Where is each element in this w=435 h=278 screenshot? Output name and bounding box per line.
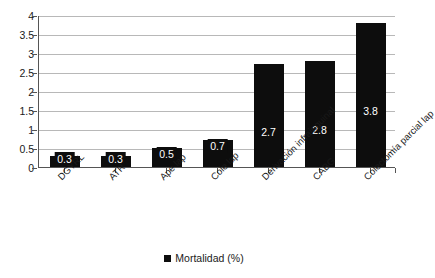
bar-slot: 0.3: [90, 16, 141, 167]
bar[interactable]: [356, 23, 386, 167]
y-tick-label: 3.5: [4, 30, 34, 41]
y-tick-label: 2: [4, 87, 34, 98]
bar-value-label: 2.7: [261, 127, 276, 138]
y-tick-label: 4: [4, 11, 34, 22]
y-tick-label: 0: [4, 163, 34, 174]
y-tick-label: 3: [4, 49, 34, 60]
chart-legend: Mortalidad (%): [0, 253, 408, 264]
y-tick-mark: [32, 92, 37, 93]
legend-label: Mortalidad (%): [175, 253, 243, 264]
bar-slot: 3.8: [345, 16, 396, 167]
y-tick-mark: [32, 35, 37, 36]
bar-slot: 2.7: [243, 16, 294, 167]
y-tick-label: 1: [4, 125, 34, 136]
y-tick-mark: [32, 111, 37, 112]
bar[interactable]: [254, 64, 284, 167]
y-tick-mark: [32, 54, 37, 55]
y-axis: 00.511.522.533.54: [0, 16, 34, 168]
y-tick-mark: [32, 16, 37, 17]
bar-slot: 0.5: [141, 16, 192, 167]
y-tick-mark: [32, 130, 37, 131]
y-tick-label: 2.5: [4, 68, 34, 79]
bar-value-label: 3.8: [363, 106, 378, 117]
bar-value-label: 0.7: [207, 139, 228, 154]
legend-marker-icon: [164, 255, 171, 262]
y-tick-mark: [32, 168, 37, 169]
y-tick-label: 0.5: [4, 144, 34, 155]
bar-slot: 0.3: [39, 16, 90, 167]
bar-slot: 0.7: [192, 16, 243, 167]
y-tick-mark: [32, 149, 37, 150]
y-tick-mark: [32, 73, 37, 74]
x-tick-mark: [395, 168, 396, 173]
y-tick-label: 1.5: [4, 106, 34, 117]
plot-area: 0.30.30.50.72.72.83.8: [38, 16, 395, 168]
